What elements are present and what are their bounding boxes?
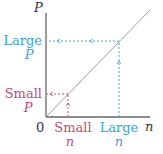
large-n-label-line2: n xyxy=(115,134,123,149)
origin-label: 0 xyxy=(36,120,44,135)
small-n-label-line1: Small xyxy=(54,120,91,135)
large-left-arrow-icon xyxy=(90,39,93,43)
x-axis-label: n xyxy=(145,119,153,134)
p-vs-n-diagram: P n 0 Large P Small P Small n Large n xyxy=(0,0,163,154)
large-p-label-line1: Large xyxy=(3,33,42,48)
large-n-label-line1: Large xyxy=(100,120,139,135)
small-n-label-line2: n xyxy=(66,134,74,149)
large-p-label-line2: P xyxy=(24,47,34,62)
y-axis-label: P xyxy=(33,0,43,15)
small-p-label-line2: P xyxy=(23,100,33,115)
proportional-line xyxy=(46,10,150,117)
small-p-label-line1: Small xyxy=(5,86,42,101)
